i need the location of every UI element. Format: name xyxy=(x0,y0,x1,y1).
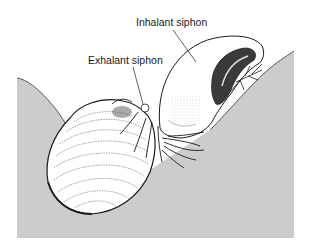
exhalant-leader-line xyxy=(133,67,143,104)
clam-siphon-diagram: Inhalant siphon Exhalant siphon xyxy=(0,0,309,252)
inhalant-siphon-label: Inhalant siphon xyxy=(136,17,207,28)
diagram-illustration xyxy=(0,0,309,252)
exhalant-siphon-label: Exhalant siphon xyxy=(88,55,163,66)
exhalant-siphon xyxy=(141,104,149,112)
